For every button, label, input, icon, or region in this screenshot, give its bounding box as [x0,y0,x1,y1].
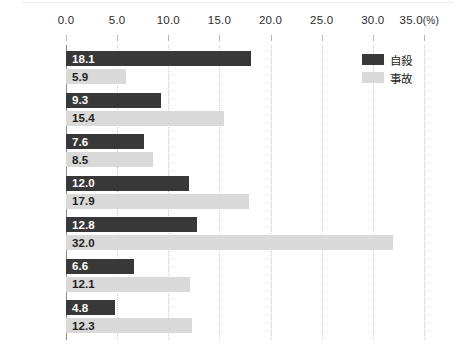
bar-accident-4: 17.9 [66,194,249,209]
bar-suicide-6: 6.6 [66,259,134,274]
x-axis-label-15.0: 15.0 [208,14,231,26]
bar-value-label: 12.0 [66,177,95,189]
bar-value-label: 32.0 [66,237,95,249]
x-tick-0.0 [66,35,67,41]
chart-legend: 自殺事故 [362,52,442,88]
plot-area: 0.05.010.015.020.025.030.035.0(%)日本18.15… [66,45,424,340]
x-tick-15.0 [219,35,220,41]
bar-value-label: 12.3 [66,320,95,332]
x-axis-label-25.0: 25.0 [310,14,333,26]
bar-value-label: 8.5 [66,154,88,166]
legend-swatch-suicide [362,54,384,65]
bar-value-label: 5.9 [66,71,88,83]
bar-chart: 0.05.010.015.020.025.030.035.0(%)日本18.15… [0,0,467,356]
x-axis-label-30.0: 30.0 [361,14,384,26]
bar-value-label: 12.8 [66,219,95,231]
bar-accident-7: 12.3 [66,318,192,333]
x-tick-25.0 [322,35,323,41]
bar-accident-5: 32.0 [66,235,393,250]
bar-suicide-2: 9.3 [66,93,161,108]
x-tick-5.0 [117,35,118,41]
bar-value-label: 9.3 [66,94,88,106]
x-tick-20.0 [271,35,272,41]
bar-suicide-4: 12.0 [66,176,189,191]
category-row: カナダ12.017.9 [66,176,424,209]
bar-accident-2: 15.4 [66,111,224,126]
category-row: イタリア4.812.3 [66,300,424,333]
bar-value-label: 4.8 [66,302,88,314]
category-row: ドイツ7.68.5 [66,134,424,167]
gridline-35.0 [424,45,425,340]
top-hairline [22,2,454,3]
x-axis-unit-label: (%) [423,15,439,26]
bar-value-label: 7.6 [66,136,88,148]
bar-value-label: 6.6 [66,260,88,272]
x-axis-label-5.0: 5.0 [109,14,126,26]
bar-suicide-5: 12.8 [66,217,197,232]
x-tick-30.0 [373,35,374,41]
bar-suicide-3: 7.6 [66,134,144,149]
legend-label-2: 事故 [390,70,413,86]
bar-accident-3: 8.5 [66,152,153,167]
bar-value-label: 12.1 [66,278,95,290]
x-axis-label-10.0: 10.0 [157,14,180,26]
category-row: アメリカ12.832.0 [66,217,424,250]
x-tick-35.0 [424,35,425,41]
bar-accident-1: 5.9 [66,69,126,84]
x-tick-10.0 [168,35,169,41]
x-axis-label-0.0: 0.0 [58,14,75,26]
legend-label-1: 自殺 [390,52,413,68]
bar-value-label: 18.1 [66,53,95,65]
category-row: フランス9.315.4 [66,93,424,126]
bar-accident-6: 12.1 [66,277,190,292]
x-axis-label-35.0: 35.0(%) [400,14,439,26]
bar-suicide-7: 4.8 [66,300,115,315]
x-axis-label-20.0: 20.0 [259,14,282,26]
legend-swatch-accident [362,72,384,83]
bar-suicide-1: 18.1 [66,51,251,66]
bar-value-label: 15.4 [66,112,95,124]
legend-item-2[interactable]: 事故 [362,70,442,85]
legend-item-1[interactable]: 自殺 [362,52,442,67]
category-row: イギリス6.612.1 [66,259,424,292]
bar-value-label: 17.9 [66,195,95,207]
